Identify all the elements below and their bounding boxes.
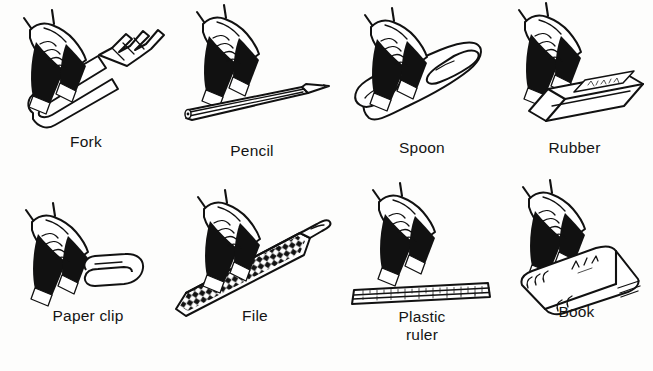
item-rubber[interactable]: Rubber: [496, 0, 653, 186]
paper-clip-illustration: [0, 185, 176, 317]
spoon-illustration: [336, 0, 508, 132]
pencil-illustration: [166, 0, 338, 132]
item-pencil[interactable]: Pencil: [166, 0, 338, 186]
fork-illustration: [0, 0, 172, 132]
item-plastic-ruler[interactable]: Plastic ruler: [338, 185, 506, 371]
hand-grip-icon: [197, 5, 259, 108]
illustration-row-bottom: Paper clip: [0, 185, 653, 371]
item-label-paper-clip: Paper clip: [0, 307, 176, 325]
item-label-pencil: Pencil: [166, 142, 338, 160]
file-illustration: [172, 185, 338, 317]
illustration-sheet: Fork: [0, 0, 653, 371]
illustration-row-top: Fork: [0, 0, 653, 186]
rubber-illustration: [496, 0, 653, 132]
item-book[interactable]: Book: [500, 185, 653, 371]
ruler-icon: [352, 283, 490, 304]
book-illustration: [500, 185, 653, 317]
item-label-fork: Fork: [0, 133, 172, 151]
item-paper-clip[interactable]: Paper clip: [0, 185, 176, 371]
item-fork[interactable]: Fork: [0, 0, 172, 186]
plastic-ruler-illustration: [338, 185, 506, 317]
hand-grip-icon: [373, 183, 435, 286]
item-label-plastic-ruler: Plastic ruler: [338, 308, 506, 344]
paper-clip-icon: [84, 254, 143, 286]
item-label-book: Book: [500, 303, 653, 321]
hand-grip-icon: [26, 203, 88, 306]
item-label-rubber: Rubber: [496, 139, 653, 157]
item-label-file: File: [172, 307, 338, 325]
item-spoon[interactable]: Spoon: [336, 0, 508, 186]
item-file[interactable]: File: [172, 185, 338, 371]
item-label-spoon: Spoon: [336, 139, 508, 157]
